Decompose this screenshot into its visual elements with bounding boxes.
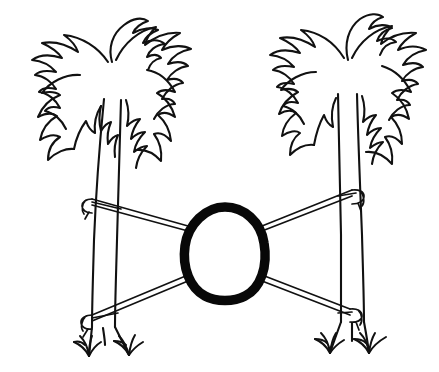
drawing-canvas: Two palm trees with a hammock rope and a… bbox=[0, 0, 439, 372]
line-drawing-svg bbox=[0, 0, 439, 372]
background bbox=[0, 0, 439, 372]
lower-right-rope-across-trunk bbox=[338, 312, 352, 313]
